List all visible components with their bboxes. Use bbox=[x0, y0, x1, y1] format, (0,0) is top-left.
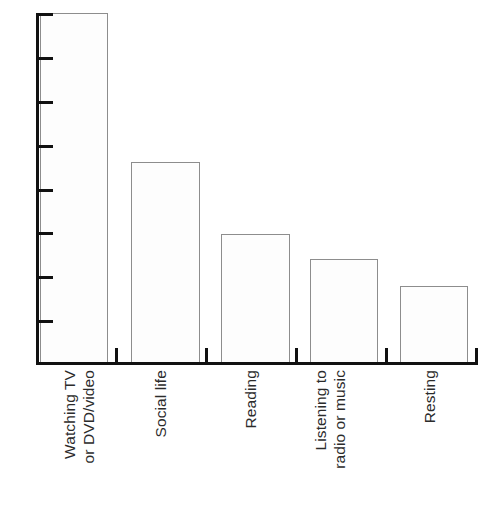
y-axis-tick bbox=[38, 232, 53, 235]
y-axis-tick bbox=[38, 145, 53, 148]
x-axis-tick bbox=[475, 348, 478, 363]
y-axis-tick bbox=[38, 362, 53, 365]
bar-watching-tv-or-dvd-video bbox=[40, 13, 108, 363]
category-label-line: radio or music bbox=[332, 370, 348, 469]
y-axis-tick bbox=[38, 320, 53, 323]
category-label-social-life: Social life bbox=[153, 370, 172, 513]
x-axis-tick bbox=[385, 348, 388, 363]
category-label-line: or DVD/video bbox=[81, 370, 97, 463]
category-labels: Watching TV or DVD/video Social life Rea… bbox=[0, 370, 499, 513]
category-label-line: Listening to bbox=[313, 370, 329, 450]
bar-social-life bbox=[131, 162, 200, 363]
category-label-listening-to-radio-or-music: Listening to radio or music bbox=[313, 370, 350, 513]
category-label-reading: Reading bbox=[243, 370, 262, 513]
plot-area bbox=[0, 0, 499, 370]
category-label-line: Watching TV bbox=[62, 370, 78, 459]
y-axis-tick bbox=[38, 101, 53, 104]
x-axis-tick bbox=[115, 348, 118, 363]
category-label-line: Social life bbox=[153, 370, 169, 437]
x-axis-tick bbox=[205, 348, 208, 363]
bar-chart: Watching TV or DVD/video Social life Rea… bbox=[0, 0, 499, 513]
x-axis-line bbox=[36, 362, 478, 365]
y-axis-tick bbox=[38, 189, 53, 192]
bar-listening-to-radio-or-music bbox=[310, 259, 378, 363]
y-axis-tick bbox=[38, 57, 53, 60]
x-axis-tick bbox=[295, 348, 298, 363]
category-label-line: Resting bbox=[422, 370, 438, 423]
category-label-watching-tv-or-dvd-video: Watching TV or DVD/video bbox=[62, 370, 99, 513]
bar-resting bbox=[400, 286, 468, 363]
bar-reading bbox=[221, 234, 290, 363]
category-label-line: Reading bbox=[243, 370, 259, 428]
y-axis-tick bbox=[38, 13, 53, 16]
category-label-resting: Resting bbox=[422, 370, 441, 513]
y-axis-tick bbox=[38, 276, 53, 279]
